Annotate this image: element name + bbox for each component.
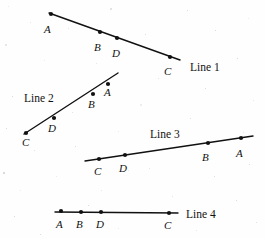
point-marker-line-4-a (59, 209, 63, 213)
paper-speck (34, 150, 35, 151)
paper-speck (149, 168, 150, 169)
paper-speck (187, 10, 188, 11)
point-label-line-2-b: B (88, 99, 95, 110)
paper-speck (30, 22, 31, 23)
point-label-line-4-c: C (164, 220, 171, 231)
point-label-line-2-d: D (48, 123, 56, 134)
point-label-line-1-b: B (94, 42, 101, 53)
point-label-line-2-a: A (104, 87, 111, 98)
paper-speck (6, 128, 7, 129)
point-label-line-4-a: A (56, 219, 63, 230)
point-label-line-1-a: A (44, 24, 51, 35)
paper-speck (72, 112, 73, 113)
paper-speck (248, 18, 249, 19)
paper-speck (158, 78, 159, 79)
point-label-line-2-c: C (22, 137, 29, 148)
line-segment-4 (55, 212, 178, 213)
point-label-line-3-a: A (236, 148, 243, 159)
paper-speck (237, 58, 238, 59)
line-diagram-figure: ABDCLine 1CDBALine 2CDBALine 3ABDCLine 4 (0, 0, 265, 239)
point-marker-line-2-b (91, 92, 95, 96)
paper-speck (215, 30, 216, 31)
point-marker-line-3-c (97, 157, 101, 161)
line-name-label-1: Line 1 (190, 62, 220, 74)
line-segments-group (24, 13, 253, 213)
paper-speck (253, 100, 254, 101)
paper-speck (110, 8, 112, 10)
point-label-line-3-b: B (202, 152, 209, 163)
point-label-line-1-c: C (164, 66, 171, 77)
paper-speck (214, 176, 215, 177)
paper-speck (196, 230, 197, 231)
diagram-canvas (0, 0, 265, 239)
paper-speck (205, 88, 206, 89)
point-marker-line-2-c (24, 131, 28, 135)
paper-speck (68, 28, 69, 29)
paper-speck (256, 222, 257, 223)
paper-speck (96, 63, 97, 64)
point-label-line-4-d: D (96, 219, 104, 230)
paper-speck (88, 205, 89, 206)
point-marker-line-4-d (99, 210, 103, 214)
paper-speck (20, 190, 21, 191)
paper-speck (128, 170, 129, 171)
paper-speck (236, 200, 237, 201)
paper-speck (140, 104, 142, 106)
point-label-line-4-b: B (76, 219, 83, 230)
paper-speck (249, 164, 250, 165)
line-name-label-2: Line 2 (24, 93, 54, 105)
point-marker-line-4-b (79, 210, 83, 214)
paper-speck (44, 60, 45, 61)
line-name-label-3: Line 3 (150, 129, 180, 141)
point-marker-line-1-b (98, 30, 102, 34)
paper-speck (12, 96, 13, 97)
paper-speck (243, 132, 244, 133)
paper-speck (5, 44, 7, 46)
point-marker-line-3-d (123, 153, 127, 157)
point-label-line-3-c: C (94, 166, 101, 177)
paper-speck (8, 6, 9, 7)
paper-speck (14, 216, 15, 217)
point-label-line-1-d: D (112, 48, 120, 59)
paper-speck (75, 146, 76, 147)
point-marker-line-1-c (168, 55, 172, 59)
paper-speck (3, 172, 5, 174)
point-marker-line-3-b (206, 141, 210, 145)
paper-speck (101, 190, 102, 191)
paper-speck (190, 118, 191, 119)
paper-speck (118, 131, 119, 132)
paper-speck (145, 34, 146, 35)
point-marker-line-1-a (49, 12, 53, 16)
point-label-line-3-d: D (119, 163, 127, 174)
paper-speck (172, 196, 173, 197)
line-name-label-4: Line 4 (186, 209, 216, 221)
point-marker-line-1-d (115, 36, 119, 40)
paper-speck (40, 234, 41, 235)
point-marker-line-3-a (239, 136, 243, 140)
paper-speck (56, 176, 57, 177)
point-marker-line-4-c (167, 211, 171, 215)
point-marker-line-2-d (52, 116, 56, 120)
paper-speck (118, 228, 119, 229)
